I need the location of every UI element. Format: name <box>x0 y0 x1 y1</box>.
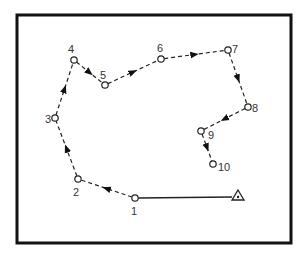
traverse-diagram: 12345678910 <box>0 0 305 255</box>
point-2-label: 2 <box>73 186 79 198</box>
point-3-label: 3 <box>45 113 51 125</box>
point-10-label: 10 <box>218 161 230 173</box>
point-6-marker <box>158 56 164 62</box>
point-2-marker <box>75 176 81 182</box>
point-10-marker <box>210 161 216 167</box>
path-segment <box>56 63 73 115</box>
point-9-marker <box>198 128 204 134</box>
path-segment <box>204 108 245 129</box>
path-segment <box>229 53 247 104</box>
path-segment <box>108 60 158 83</box>
solid-baseline <box>138 197 232 198</box>
point-7-label: 7 <box>232 43 238 55</box>
survey-points: 12345678910 <box>45 42 258 217</box>
path-segment <box>164 50 225 58</box>
point-5-label: 5 <box>100 69 106 81</box>
point-9-label: 9 <box>208 129 214 141</box>
point-8-label: 8 <box>252 102 258 114</box>
point-8-marker <box>245 104 251 110</box>
dashed-traverse-path <box>56 50 247 197</box>
point-5-marker <box>102 82 108 88</box>
diagram-frame <box>17 15 291 243</box>
point-7-marker <box>225 47 231 53</box>
point-6-label: 6 <box>157 42 163 54</box>
path-segment <box>81 180 132 197</box>
point-4-label: 4 <box>68 43 74 55</box>
path-segment <box>76 62 102 83</box>
path-segment <box>56 121 77 176</box>
point-4-marker <box>71 57 77 63</box>
point-1-label: 1 <box>131 205 137 217</box>
point-3-marker <box>52 115 58 121</box>
point-1-marker <box>132 195 138 201</box>
triangle-station-icon <box>232 190 244 200</box>
